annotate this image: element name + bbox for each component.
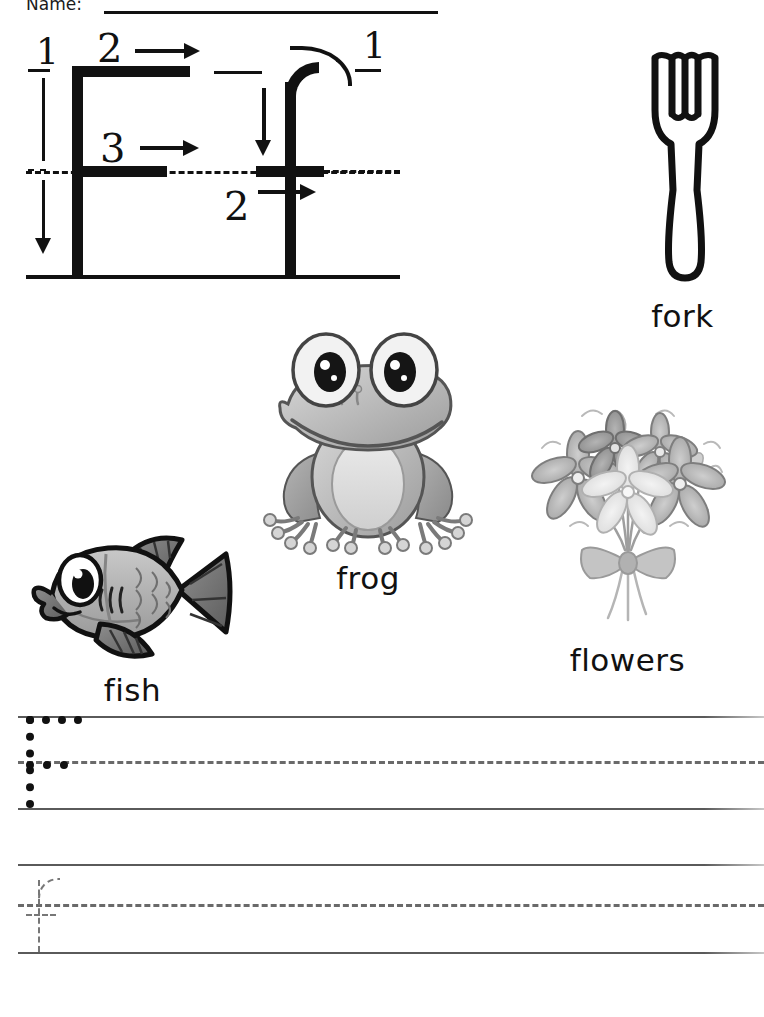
uppercase-stroke1-arrow-shaft-a [42, 78, 45, 161]
uppercase-stroke1-arrow-shaft-b [42, 180, 45, 242]
lowercase-stroke2-arrowhead-right-icon [300, 184, 316, 200]
uppercase-stroke3-arrow-shaft [140, 146, 186, 150]
formation-mid-tick-left [28, 169, 46, 171]
trace-lowercase-f-crossbar [26, 914, 56, 916]
trace-lowercase-f-hook [38, 878, 60, 898]
picture-flowers [520, 400, 735, 630]
picture-frog [258, 332, 478, 557]
picture-fish [30, 528, 235, 668]
lowercase-f-stem-stroke [285, 82, 296, 277]
uppercase-stroke-number-2: 2 [97, 28, 122, 68]
formation-topline-dash [214, 71, 262, 74]
lowercase-stroke-number-1: 1 [363, 28, 386, 64]
fork-icon [615, 40, 755, 290]
lowercase-stroke1-arrow-curve [290, 46, 352, 86]
practice-row1-baseline [18, 808, 764, 810]
picture-label-frog: frog [258, 560, 478, 596]
practice-row2-top-line [18, 864, 764, 866]
fish-icon [30, 528, 235, 668]
lowercase-stroke1-arrowhead-down-icon [255, 140, 271, 156]
practice-row2-dashed-midline [18, 904, 764, 907]
uppercase-stroke-number-1: 1 [36, 34, 59, 70]
letter-formation-diagram: 1 2 3 1 2 [0, 0, 440, 300]
lowercase-stroke2-arrow-shaft [258, 190, 304, 194]
picture-fork [615, 40, 755, 290]
uppercase-stroke3-arrowhead-right-icon [183, 140, 199, 156]
formation-top-tick-right [355, 69, 381, 72]
uppercase-stroke2-arrowhead-right-icon [184, 43, 200, 59]
picture-label-flowers: flowers [520, 642, 735, 678]
picture-label-fork: fork [600, 298, 764, 334]
practice-row2-baseline [18, 952, 764, 954]
lowercase-f-crossbar-stroke [256, 166, 324, 177]
lowercase-stroke-number-2: 2 [224, 186, 249, 226]
worksheet-page: Name: 1 [0, 0, 764, 1017]
trace-uppercase-f-middle [26, 761, 68, 769]
practice-row1-top-line [18, 716, 764, 718]
lowercase-stroke1-arrow-shaft [262, 88, 266, 143]
trace-lowercase-f-stem [38, 880, 40, 952]
frog-icon [258, 332, 478, 557]
trace-uppercase-f-top [26, 716, 82, 724]
formation-midline-right [324, 170, 400, 173]
uppercase-stroke-number-3: 3 [100, 128, 125, 168]
uppercase-stroke1-arrowhead-down-icon [35, 238, 51, 254]
picture-label-fish: fish [30, 672, 235, 708]
practice-row1-dashed-midline [18, 761, 764, 764]
practice-row-uppercase[interactable] [18, 716, 764, 812]
uppercase-f-top-stroke [72, 66, 190, 77]
uppercase-stroke2-arrow-shaft [135, 49, 187, 53]
flowers-icon [520, 400, 735, 630]
practice-row-lowercase[interactable] [18, 864, 764, 956]
